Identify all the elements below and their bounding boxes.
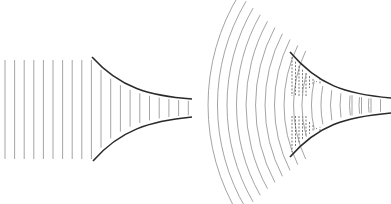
horn-wall-bottom (93, 117, 192, 161)
spherical-wavefront (237, 15, 261, 195)
spherical-wavefront (246, 21, 267, 188)
horn-spherical-wavefront (330, 90, 331, 120)
spherical-wavefront (274, 40, 290, 171)
horn-spherical-wavefront (368, 98, 369, 112)
plane-wave-panel (5, 57, 192, 161)
horn-wall-bottom-right (290, 113, 391, 157)
horn-spherical-wavefront (359, 97, 360, 114)
spherical-wave-panel (208, 0, 391, 204)
horn-internal-wavefronts-right (302, 73, 380, 137)
horn-spherical-wavefront (311, 81, 314, 130)
spherical-wavefront (208, 0, 239, 204)
horn-wall-top-right (290, 52, 391, 98)
plane-wavefronts (5, 60, 91, 159)
horn-wave-diagram (0, 0, 391, 204)
hatched-region (292, 57, 320, 152)
spherical-wavefronts (208, 0, 306, 204)
horn-internal-wavefronts (101, 70, 188, 148)
horn-spherical-wavefront (340, 93, 341, 117)
horn-wall-top (92, 57, 192, 99)
horn-spherical-wavefront (321, 86, 323, 124)
spherical-wavefront (265, 34, 282, 177)
horn-spherical-wavefront (349, 96, 350, 116)
